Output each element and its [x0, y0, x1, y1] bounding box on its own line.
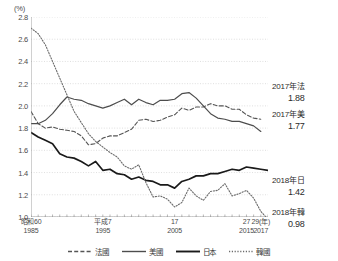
annotation-france-2017: 2017年法1.88 — [272, 82, 305, 103]
gridlines — [31, 17, 268, 217]
y-axis-tick-label: 2.6 — [4, 35, 28, 44]
legend-swatch-icon — [229, 248, 253, 255]
x-axis-tick-label: 29(年)2017 — [252, 218, 270, 235]
chart-legend: 法國美國日本韓國 — [0, 243, 338, 259]
data-series-lines — [31, 28, 268, 217]
annotation-korea-2018: 2018年韓0.98 — [272, 208, 305, 229]
y-axis-tick-label: 2.2 — [4, 79, 28, 88]
legend-label: 美國 — [149, 246, 163, 257]
annotation-label: 2017年法 — [272, 82, 305, 91]
y-axis-tick-label: 1.6 — [4, 146, 28, 155]
legend-item-0: 法國 — [68, 246, 109, 257]
y-axis-tick-label: 2.8 — [4, 13, 28, 22]
annotation-label: 2017年美 — [272, 110, 305, 119]
y-axis-tick-label: 1.4 — [4, 168, 28, 177]
plot-area — [31, 17, 268, 217]
legend-item-1: 美國 — [122, 246, 163, 257]
annotation-value: 0.98 — [272, 219, 305, 230]
x-axis-tick-label: 172005 — [167, 218, 182, 235]
x-tick-era: 昭和60 — [21, 218, 42, 227]
series-line-2 — [31, 133, 268, 189]
legend-label: 日本 — [203, 246, 217, 257]
y-axis-tick-label: 2.0 — [4, 101, 28, 110]
x-tick-western-year: 2005 — [167, 227, 182, 236]
x-axis-tick-label: 昭和601985 — [21, 218, 42, 235]
x-tick-era: 17 — [167, 218, 182, 227]
legend-swatch-icon — [68, 248, 92, 255]
x-axis-tick-label: 平成71995 — [94, 218, 111, 235]
x-tick-era: 29(年) — [252, 218, 270, 227]
annotation-japan-2018: 2018年日1.42 — [272, 176, 305, 197]
legend-item-2: 日本 — [176, 246, 217, 257]
series-line-0 — [31, 104, 261, 145]
series-line-3 — [31, 28, 268, 217]
y-axis-tick-label: 1.8 — [4, 124, 28, 133]
x-tick-western-year: 2017 — [252, 227, 270, 236]
annotation-value: 1.77 — [272, 121, 305, 132]
legend-swatch-icon — [176, 248, 200, 255]
x-tick-western-year: 1995 — [94, 227, 111, 236]
annotation-label: 2018年日 — [272, 176, 305, 185]
plot-svg — [31, 17, 268, 217]
annotation-value: 1.88 — [272, 93, 305, 104]
annotation-usa-2017: 2017年美1.77 — [272, 110, 305, 131]
legend-label: 韓國 — [256, 246, 270, 257]
legend-item-3: 韓國 — [229, 246, 270, 257]
y-axis-tick-label: 1.2 — [4, 190, 28, 199]
annotation-label: 2018年韓 — [272, 208, 305, 217]
annotation-value: 1.42 — [272, 187, 305, 198]
y-axis-tick-label: 2.4 — [4, 57, 28, 66]
series-line-1 — [31, 93, 261, 132]
x-tick-western-year: 1985 — [21, 227, 42, 236]
fertility-rate-line-chart: (%) 1.01.21.41.61.82.02.22.42.62.8 昭和601… — [0, 0, 338, 261]
x-tick-era: 平成7 — [94, 218, 111, 227]
legend-swatch-icon — [122, 248, 146, 255]
legend-label: 法國 — [95, 246, 109, 257]
